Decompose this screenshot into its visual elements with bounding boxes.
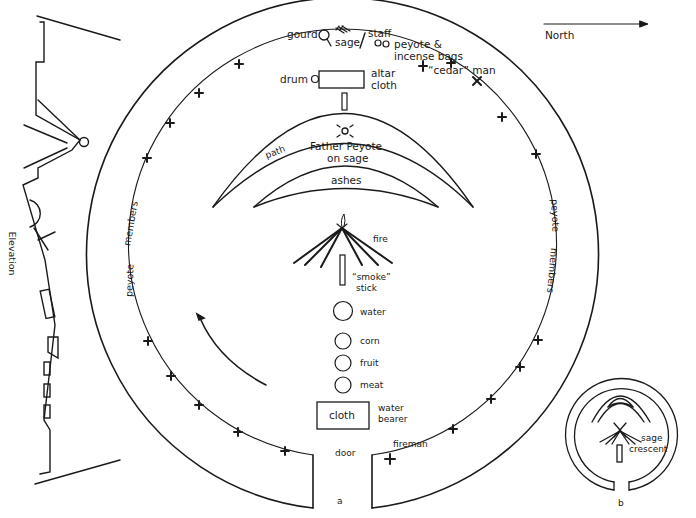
meat-label: meat	[360, 379, 383, 391]
cloth-label: cloth	[329, 409, 355, 421]
peyote-bags-label-2: incense bags	[394, 50, 463, 62]
meat-bowl-icon	[335, 377, 351, 393]
corn-bowl-icon	[335, 333, 351, 349]
sage-crescent-label-2: crescent	[629, 443, 667, 455]
left-peyote-label: peyote	[123, 264, 135, 297]
peyote-bags-label-1: peyote &	[394, 38, 442, 50]
peyote-bags-icon	[375, 40, 389, 47]
figure-b-caption: b	[618, 497, 624, 509]
north-label: North	[545, 29, 574, 41]
water-bowl-icon	[334, 302, 353, 321]
fruit-label: fruit	[360, 357, 379, 369]
tipi-ring	[86, 0, 598, 508]
circulation-arrow-icon	[197, 314, 266, 385]
father-peyote-icon	[337, 125, 353, 137]
ashes-label: ashes	[331, 174, 362, 186]
gourd-icon	[319, 30, 331, 46]
elevation-profile	[23, 16, 120, 484]
cedar-man-label: “cedar” man	[428, 64, 496, 76]
staff-label: staff	[368, 27, 391, 39]
water-label: water	[360, 306, 386, 318]
member-markers	[143, 59, 542, 464]
north-arrow-icon	[544, 21, 648, 27]
father-peyote-label-2: on sage	[327, 152, 368, 164]
fireman-label: fireman	[393, 438, 428, 450]
smoke-stick-icon	[340, 255, 345, 285]
right-peyote-label: peyote	[549, 199, 561, 232]
smoke-stick-label-2: stick	[356, 282, 377, 294]
peyote-tipi-diagram	[0, 0, 696, 518]
gourd-label: gourd	[287, 28, 318, 40]
father-peyote-label-1: Father Peyote	[310, 140, 382, 152]
fire-label: fire	[373, 233, 388, 245]
altar-cloth	[319, 71, 364, 88]
elevation-label: Elevation	[7, 231, 18, 275]
water-bearer-label-2: bearer	[378, 413, 408, 425]
stick-icon	[342, 93, 347, 110]
drum-label: drum	[280, 73, 308, 85]
sage-icon	[336, 26, 350, 33]
altar-cloth-label-2: cloth	[371, 79, 397, 91]
fruit-bowl-icon	[335, 355, 351, 371]
staff-icon	[360, 33, 365, 48]
door-label: door	[335, 447, 355, 459]
corn-label: corn	[360, 335, 380, 347]
altar-cloth-label-1: altar	[371, 67, 395, 79]
drum-icon	[312, 76, 319, 83]
sage-label: sage	[335, 36, 360, 48]
figure-a-caption: a	[337, 495, 343, 507]
